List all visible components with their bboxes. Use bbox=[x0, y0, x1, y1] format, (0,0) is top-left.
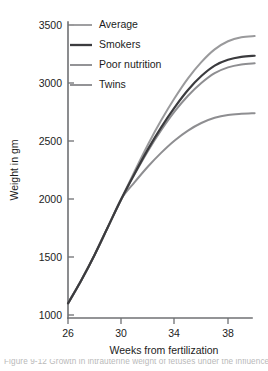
figure-container: Weight in gm 3500 3000 2500 2000 1500 10… bbox=[0, 0, 268, 371]
legend-label-twins: Twins bbox=[99, 78, 126, 90]
x-axis-title: Weeks from fertilization bbox=[110, 344, 219, 356]
chart-legend: AverageSmokersPoor nutritionTwins bbox=[70, 18, 162, 90]
series-line-twins bbox=[68, 113, 255, 303]
x-tick-label: 34 bbox=[168, 327, 180, 339]
series-line-average bbox=[68, 36, 255, 303]
x-tick-label: 38 bbox=[222, 327, 234, 339]
y-tick-label: 1000 bbox=[39, 309, 63, 321]
x-axis-ticks: 26 30 34 38 bbox=[62, 318, 234, 339]
series-line-smokers bbox=[68, 56, 255, 304]
y-tick-label: 2500 bbox=[39, 135, 63, 147]
y-tick-label: 2000 bbox=[39, 193, 63, 205]
x-tick-label: 26 bbox=[62, 327, 74, 339]
line-chart: Weight in gm 3500 3000 2500 2000 1500 10… bbox=[0, 0, 268, 371]
figure-caption-strip: Figure 9-12 Growth in intrauterine weigh… bbox=[0, 359, 268, 371]
figure-caption: Figure 9-12 Growth in intrauterine weigh… bbox=[4, 359, 266, 366]
series-group bbox=[68, 36, 255, 303]
y-tick-label: 3500 bbox=[39, 19, 63, 31]
series-line-poor-nutrition bbox=[68, 63, 255, 303]
legend-label-smokers: Smokers bbox=[99, 38, 140, 50]
y-axis-title: Weight in gm bbox=[8, 139, 20, 200]
y-tick-label: 3000 bbox=[39, 77, 63, 89]
y-tick-label: 1500 bbox=[39, 251, 63, 263]
legend-label-poor-nutrition: Poor nutrition bbox=[99, 58, 162, 70]
x-tick-label: 30 bbox=[115, 327, 127, 339]
legend-label-average: Average bbox=[99, 18, 138, 30]
